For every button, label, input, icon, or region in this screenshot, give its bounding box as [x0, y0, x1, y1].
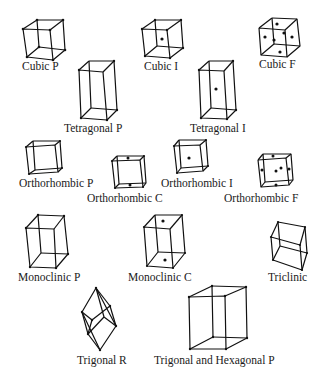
- lattice-trigonal-r: [81, 287, 117, 351]
- lattice-orthorhombic-c: [111, 155, 146, 189]
- lattice-orthorhombic-f: [258, 154, 293, 187]
- lattice-trigonal-hexagonal-p: [188, 285, 248, 350]
- label-cubic-i: Cubic I: [144, 61, 178, 73]
- lattice-tetragonal-i: [198, 60, 237, 120]
- lattice-triclinic: [270, 221, 308, 271]
- label-monoclinic-c: Monoclinic C: [128, 272, 192, 284]
- lattice-tetragonal-p: [78, 60, 118, 121]
- label-trigonal-r: Trigonal R: [77, 355, 127, 367]
- label-orthorhombic-c: Orthorhombic C: [87, 193, 163, 205]
- lattice-monoclinic-p: [25, 214, 69, 269]
- lattice-cubic-i: [141, 19, 184, 59]
- lattice-cubic-p: [22, 19, 67, 62]
- lattice-orthorhombic-i: [173, 139, 209, 174]
- label-orthorhombic-f: Orthorhombic F: [224, 193, 298, 205]
- label-orthorhombic-i: Orthorhombic I: [161, 178, 233, 190]
- label-triclinic: Triclinic: [268, 272, 307, 284]
- lattice-monoclinic-c: [143, 214, 186, 269]
- label-cubic-p: Cubic P: [22, 61, 59, 73]
- label-trigonal-hexagonal-p: Trigonal and Hexagonal P: [154, 355, 275, 367]
- label-tetragonal-p: Tetragonal P: [64, 123, 122, 135]
- label-tetragonal-i: Tetragonal I: [190, 123, 246, 135]
- lattice-cubic-f: [259, 18, 300, 57]
- label-cubic-f: Cubic F: [259, 59, 296, 71]
- label-monoclinic-p: Monoclinic P: [18, 272, 80, 284]
- lattice-orthorhombic-p: [25, 140, 63, 175]
- label-orthorhombic-p: Orthorhombic P: [19, 178, 93, 190]
